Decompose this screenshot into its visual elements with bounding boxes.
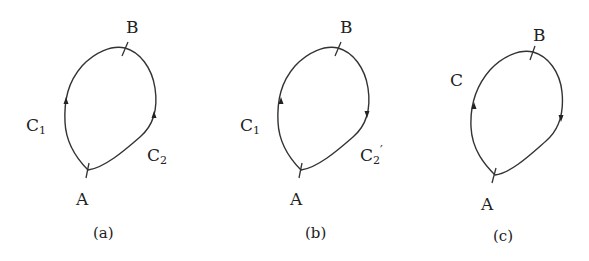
curve-c1-label: C1	[26, 115, 46, 137]
curve-c-label: C	[450, 70, 463, 90]
panel-c: B A C (c)	[450, 25, 564, 245]
point-b-label: B	[340, 17, 353, 37]
point-b-label: B	[533, 25, 546, 45]
curve-c2-label: C2	[147, 145, 167, 167]
point-a-label: A	[75, 189, 89, 209]
curve-c2-prime-label: C2′	[360, 144, 383, 167]
arrow-down-c2-prime-icon	[365, 111, 370, 118]
closed-curve-a	[65, 47, 156, 170]
point-b-label: B	[126, 17, 139, 37]
closed-curve-c	[471, 51, 563, 175]
panel-b: B A C1 C2′ (b)	[240, 17, 383, 242]
caption-a: (a)	[93, 224, 114, 242]
point-a-label: A	[289, 189, 303, 209]
panel-a: B A C1 C2 (a)	[26, 17, 167, 242]
arrow-up-c2-icon	[152, 111, 157, 118]
closed-curve-b	[278, 47, 369, 170]
caption-c: (c)	[493, 227, 513, 245]
curve-c1-label: C1	[240, 115, 260, 137]
point-a-label: A	[480, 194, 494, 214]
arrow-up-c1-icon	[64, 97, 69, 104]
caption-b: (b)	[305, 224, 326, 242]
line-integral-figure: B A C1 C2 (a) B A C1 C2′ (b) B A C (c)	[0, 0, 589, 261]
